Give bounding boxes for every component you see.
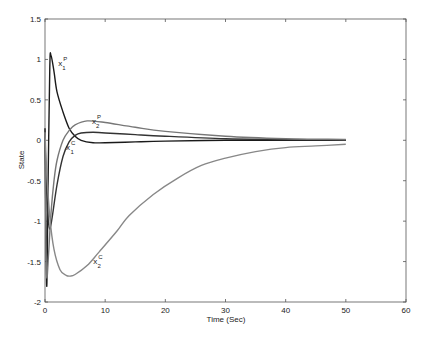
y-tick-label: -2 (34, 298, 42, 307)
x-tick-label: 30 (221, 306, 230, 315)
y-tick-label: 0 (37, 136, 42, 145)
x-tick-label: 20 (161, 306, 170, 315)
y-tick-label: -0.5 (27, 177, 41, 186)
y-tick-label: 1 (37, 55, 42, 64)
x-tick-label: 60 (402, 306, 411, 315)
x-tick-label: 40 (281, 306, 290, 315)
line-chart: 0102030405060-2-1.5-1-0.500.511.5 xP1xP2… (0, 0, 427, 339)
x-tick-label: 10 (101, 306, 110, 315)
y-tick-label: 0.5 (30, 96, 42, 105)
y-tick-label: -1 (34, 217, 42, 226)
y-tick-label: -1.5 (27, 258, 41, 267)
x-tick-label: 50 (341, 306, 350, 315)
y-axis-label: State (17, 150, 26, 169)
y-tick-label: 1.5 (30, 15, 42, 24)
x-axis-label: Time (Sec) (207, 315, 246, 324)
x-tick-label: 0 (43, 306, 48, 315)
